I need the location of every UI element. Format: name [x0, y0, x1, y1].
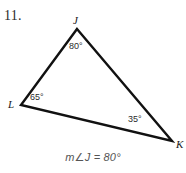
vertex-label-l: L — [8, 99, 14, 110]
triangle-shape — [21, 29, 172, 141]
vertex-label-j: J — [73, 15, 78, 26]
angle-measure-l: 65° — [30, 93, 44, 102]
angle-measure-j: 80° — [69, 42, 83, 51]
problem-number: 11. — [4, 9, 22, 23]
triangle-diagram — [0, 0, 186, 173]
worksheet-problem-figure: 11. J K L 80° 65° 35° m∠J = 80° — [0, 0, 186, 173]
angle-measure-k: 35° — [128, 115, 142, 124]
answer-statement: m∠J = 80° — [0, 152, 186, 163]
vertex-label-k: K — [176, 139, 183, 150]
